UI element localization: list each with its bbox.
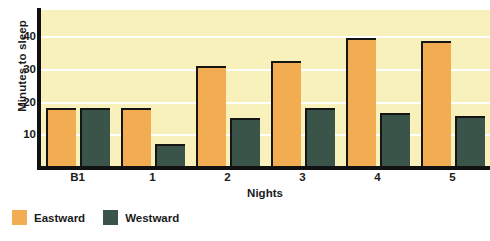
bar-eastward-5 (421, 41, 451, 167)
y-axis-tick-labels: 10203040 (0, 0, 36, 241)
legend-entry-westward: Westward (103, 210, 179, 225)
bar-eastward-1 (121, 108, 151, 167)
y-axis-tick-label: 10 (2, 128, 36, 140)
plot-area (40, 10, 490, 167)
bar-eastward-3 (271, 61, 301, 167)
bar-westward-3 (305, 108, 335, 167)
x-axis-tick-label: 3 (299, 171, 305, 183)
y-axis-tick-label: 40 (2, 30, 36, 42)
bar-westward-5 (455, 116, 485, 167)
bar-westward-2 (230, 118, 260, 167)
y-axis-tick-label: 30 (2, 63, 36, 75)
legend-swatch-icon (12, 210, 27, 225)
x-axis-tick-label: 5 (449, 171, 455, 183)
chart-legend: EastwardWestward (12, 210, 179, 225)
y-axis-line (37, 8, 41, 169)
x-axis-tick-label: 1 (149, 171, 155, 183)
bar-westward-B1 (80, 108, 110, 167)
legend-swatch-icon (103, 210, 118, 225)
bar-westward-4 (380, 113, 410, 167)
x-axis-tick-label: B1 (70, 171, 85, 183)
legend-entry-eastward: Eastward (12, 210, 85, 225)
bar-eastward-2 (196, 66, 226, 167)
bar-eastward-4 (346, 38, 376, 167)
x-axis-tick-label: 4 (374, 171, 380, 183)
bar-chart-figure: Minutes to sleep 10203040 B112345 Nights… (0, 0, 490, 241)
gridline (40, 36, 490, 38)
x-axis-tick-label: 2 (224, 171, 230, 183)
legend-label: Eastward (34, 212, 85, 224)
x-axis-line (37, 166, 490, 170)
bar-westward-1 (155, 144, 185, 167)
y-axis-tick-label: 20 (2, 96, 36, 108)
x-axis-title: Nights (40, 187, 490, 199)
bar-eastward-B1 (46, 108, 76, 167)
legend-label: Westward (125, 212, 179, 224)
